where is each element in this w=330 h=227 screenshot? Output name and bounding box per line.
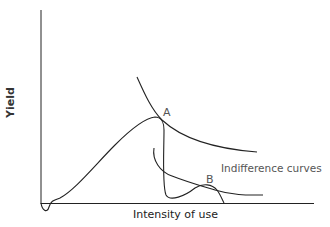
point-b-label: B — [206, 173, 214, 186]
yield-curve — [41, 117, 224, 211]
point-a-label: A — [163, 106, 171, 119]
indifference-curve-upper — [137, 77, 257, 152]
y-axis-label: Yield — [4, 87, 17, 118]
indifference-curves-label: Indifference curves — [221, 162, 322, 174]
x-axis-label: Intensity of use — [133, 208, 218, 221]
